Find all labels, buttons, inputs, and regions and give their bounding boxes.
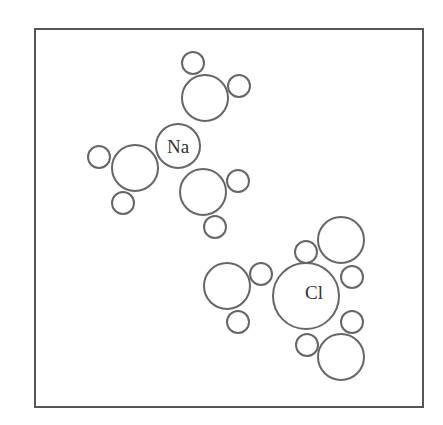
water-molecule xyxy=(296,311,364,380)
hydrogen-atom xyxy=(227,170,249,192)
hydrogen-atom xyxy=(341,311,363,333)
hydrogen-atom xyxy=(296,334,318,356)
sodium-ion: Na xyxy=(156,124,200,168)
hydrogen-atom xyxy=(250,263,272,285)
hydrogen-atom xyxy=(341,266,363,288)
hydrogen-atom xyxy=(228,75,250,97)
hydrogen-atom xyxy=(112,192,134,214)
water-molecules xyxy=(88,52,364,380)
water-molecule xyxy=(204,263,272,333)
water-molecule xyxy=(182,52,250,121)
water-molecule xyxy=(295,217,364,288)
sodium-ion-label: Na xyxy=(167,136,190,157)
ion-hydration-diagram: NaCl xyxy=(0,0,443,425)
water-molecule xyxy=(88,145,158,214)
hydrogen-atom xyxy=(295,241,317,263)
oxygen-atom xyxy=(182,75,228,121)
oxygen-atom xyxy=(204,263,250,309)
oxygen-atom xyxy=(180,169,226,215)
chloride-ion: Cl xyxy=(273,263,339,329)
hydrogen-atom xyxy=(227,311,249,333)
hydrogen-atom xyxy=(88,146,110,168)
oxygen-atom xyxy=(318,217,364,263)
water-molecule xyxy=(180,169,249,238)
hydrogen-atom xyxy=(204,216,226,238)
oxygen-atom xyxy=(318,334,364,380)
oxygen-atom xyxy=(112,145,158,191)
hydrogen-atom xyxy=(182,52,204,74)
chloride-ion-label: Cl xyxy=(305,282,323,303)
